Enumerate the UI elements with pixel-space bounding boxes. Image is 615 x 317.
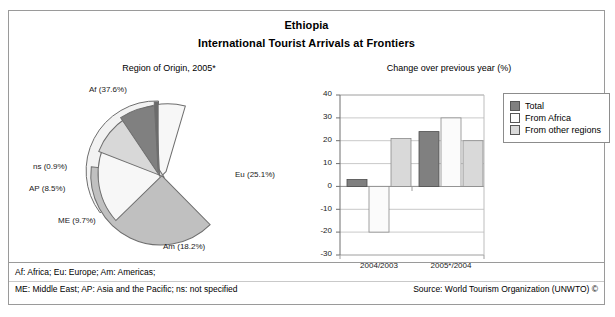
y-tick-10: 10 xyxy=(308,158,332,167)
bar-chart: 40 30 20 10 0 -10 -20 -30 2004/2003 2005… xyxy=(314,77,604,267)
legend-item-from-other-regions: From other regions xyxy=(510,125,601,135)
page-subtitle: International Tourist Arrivals at Fronti… xyxy=(9,37,604,49)
bar-chart-gridlines xyxy=(340,95,484,255)
figure-container: Ethiopia International Tourist Arrivals … xyxy=(8,10,605,305)
pie-slices xyxy=(69,82,210,262)
bar-chart-legend: Total From Africa From other regions xyxy=(503,93,610,143)
bar-chart-title: Change over previous year (%) xyxy=(309,63,589,73)
legend-swatch-africa-icon xyxy=(510,113,520,123)
pie-label-eu: Eu (25.1%) xyxy=(235,170,275,179)
y-tick-neg10: -10 xyxy=(308,204,332,213)
pie-label-me: ME (9.7%) xyxy=(58,216,96,225)
pie-label-ns: ns (0.9%) xyxy=(33,162,67,171)
legend-item-from-africa: From Africa xyxy=(510,113,601,123)
legend-label-total: Total xyxy=(525,101,544,111)
bar-africa-2004 xyxy=(369,186,389,232)
y-tick-0: 0 xyxy=(308,181,332,190)
footnote-line-2: ME: Middle East; AP: Asia and the Pacifi… xyxy=(15,284,238,294)
legend-swatch-other-icon xyxy=(510,125,520,135)
figure-footer: Af: Africa; Eu: Europe; Am: Americas; ME… xyxy=(9,262,604,304)
bar-other-2005 xyxy=(463,141,483,187)
bar-africa-2005 xyxy=(441,118,461,186)
bar-group-2005-2004 xyxy=(419,118,483,186)
y-tick-20: 20 xyxy=(308,135,332,144)
bar-other-2004 xyxy=(391,138,411,186)
bar-total-2004 xyxy=(347,180,367,187)
pie-chart: Af (37.6%) Eu (25.1%) Am (18.2%) ME (9.7… xyxy=(13,77,313,262)
pie-chart-title: Region of Origin, 2005* xyxy=(29,63,309,73)
y-tick-neg30: -30 xyxy=(308,249,332,258)
y-tick-40: 40 xyxy=(308,89,332,98)
legend-label-from-africa: From Africa xyxy=(525,113,571,123)
bar-group-2004-2003 xyxy=(347,138,411,232)
footnote-line-1: Af: Africa; Eu: Europe; Am: Americas; xyxy=(15,267,155,277)
legend-label-from-other-regions: From other regions xyxy=(525,125,601,135)
page-title: Ethiopia xyxy=(9,19,604,31)
legend-item-total: Total xyxy=(510,101,601,111)
legend-swatch-total-icon xyxy=(510,101,520,111)
bar-total-2005 xyxy=(419,132,439,187)
y-tick-neg20: -20 xyxy=(308,226,332,235)
source-credit: Source: World Tourism Organization (UNWT… xyxy=(413,284,598,294)
pie-label-am: Am (18.2%) xyxy=(163,242,205,251)
footer-divider xyxy=(9,281,604,282)
pie-label-ap: AP (8.5%) xyxy=(29,184,65,193)
pie-label-af: Af (37.6%) xyxy=(89,85,127,94)
y-tick-30: 30 xyxy=(308,112,332,121)
